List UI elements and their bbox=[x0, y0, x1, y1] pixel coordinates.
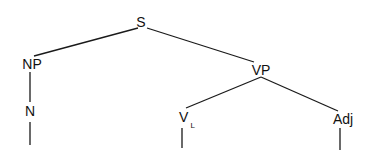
tree-edges bbox=[0, 0, 365, 164]
edge-s-vp bbox=[147, 28, 254, 62]
node-v: VL bbox=[179, 110, 193, 124]
node-np: NP bbox=[22, 57, 41, 71]
node-adj: Adj bbox=[333, 112, 353, 126]
node-vp: VP bbox=[252, 63, 271, 77]
edge-vp-v bbox=[186, 77, 261, 108]
node-np-label: NP bbox=[22, 56, 41, 72]
node-s-label: S bbox=[136, 14, 145, 30]
node-s: S bbox=[136, 15, 145, 29]
node-vp-label: VP bbox=[252, 62, 271, 78]
node-v-label: V bbox=[179, 109, 188, 125]
node-n-label: N bbox=[25, 103, 35, 119]
edge-s-np bbox=[34, 28, 138, 56]
edge-vp-adj bbox=[261, 77, 338, 111]
node-n: N bbox=[25, 104, 35, 118]
node-adj-label: Adj bbox=[333, 111, 353, 127]
node-v-subscript: L bbox=[190, 121, 194, 130]
